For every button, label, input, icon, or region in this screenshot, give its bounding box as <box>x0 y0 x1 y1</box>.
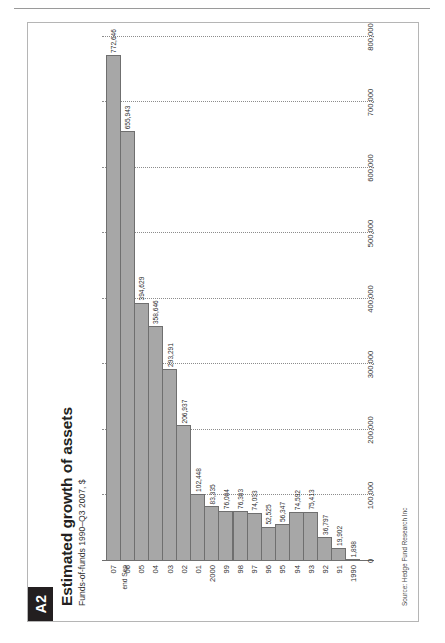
value-tick-label: 100,000 <box>366 481 375 508</box>
bar-94 <box>289 512 304 561</box>
bar-99 <box>218 511 233 561</box>
value-tick-label: 300,000 <box>366 350 375 377</box>
bar-97 <box>246 512 261 560</box>
bar-row: 358,646 <box>147 37 162 561</box>
bar-value-label: 655,943 <box>123 105 130 131</box>
bar-96 <box>260 526 275 560</box>
bar-value-label: 76,084 <box>222 489 229 511</box>
bar-row: 293,291 <box>162 37 177 561</box>
bar-value-label: 74,592 <box>293 489 300 511</box>
bar-row: 102,448 <box>190 37 205 561</box>
bar-row: 19,902 <box>331 37 346 561</box>
figure-titles: Estimated growth of assets Funds-of-fund… <box>58 276 88 606</box>
value-axis: 0100,000200,000300,000400,000500,000600,… <box>360 37 376 561</box>
category-label-07: 07 <box>108 565 117 573</box>
bar-06 <box>119 131 134 561</box>
value-tick-label: 0 <box>366 558 375 562</box>
bar-value-label: 293,291 <box>166 343 173 369</box>
bar-row: 74,033 <box>246 37 261 561</box>
bar-03 <box>162 368 177 560</box>
category-label-1990: 1990 <box>348 565 357 582</box>
bar-value-label: 358,646 <box>151 300 158 326</box>
bar-row: 76,084 <box>218 37 233 561</box>
bar-row: 76,383 <box>232 37 247 561</box>
value-tick-label: 200,000 <box>366 416 375 443</box>
bar-value-label: 74,033 <box>250 490 257 512</box>
category-label-02: 02 <box>179 565 188 573</box>
value-tick-label: 800,000 <box>366 23 375 50</box>
bar-row: 655,943 <box>119 37 134 561</box>
bar-value-label: 83,335 <box>208 484 215 506</box>
plot-inner: 1,89819,90236,79775,41374,59256,34752,52… <box>106 37 360 561</box>
bar-row: 772,646 <box>105 37 120 561</box>
page-top-rule <box>14 8 430 9</box>
bar-07 <box>105 54 120 560</box>
bar-value-label: 36,797 <box>321 514 328 536</box>
bar-05 <box>133 302 148 560</box>
value-tick-label: 600,000 <box>366 154 375 181</box>
plot-area: 1990919293949596979899200001020304050607… <box>106 37 376 587</box>
category-label-94: 94 <box>292 565 301 573</box>
bar-row: 52,525 <box>260 37 275 561</box>
category-label-93: 93 <box>306 565 315 573</box>
category-label-99: 99 <box>221 565 230 573</box>
chart-subtitle: Funds-of-funds 1990–Q3 2007, $ <box>78 276 87 606</box>
bar-row: 394,629 <box>133 37 148 561</box>
bar-row: 75,413 <box>303 37 318 561</box>
bar-91 <box>331 547 346 560</box>
bar-95 <box>274 524 289 561</box>
chart-title: Estimated growth of assets <box>58 276 75 606</box>
bar-value-label: 56,347 <box>278 501 285 523</box>
bar-row: 1,898 <box>345 37 360 561</box>
bar-value-label: 52,525 <box>264 504 271 526</box>
bar-series: 1,89819,90236,79775,41374,59256,34752,52… <box>106 37 360 561</box>
bar-row: 56,347 <box>274 37 289 561</box>
category-label-92: 92 <box>320 565 329 573</box>
value-tick-label: 400,000 <box>366 285 375 312</box>
category-label-98: 98 <box>235 565 244 573</box>
category-label-04: 04 <box>150 565 159 573</box>
bar-value-label: 19,902 <box>335 525 342 547</box>
value-tick-label: 500,000 <box>366 219 375 246</box>
source-note: Source: Hedge Fund Research Inc <box>401 507 408 605</box>
bar-value-label: 102,448 <box>194 468 201 494</box>
figure-panel: A2 Estimated growth of assets Funds-of-f… <box>27 22 419 622</box>
bar-92 <box>317 536 332 560</box>
value-tick-label: 700,000 <box>366 88 375 115</box>
category-label-01: 01 <box>193 565 202 573</box>
bar-row: 36,797 <box>317 37 332 561</box>
bar-2000 <box>204 506 219 561</box>
bar-row: 206,937 <box>176 37 191 561</box>
category-label-96: 96 <box>263 565 272 573</box>
category-label-95: 95 <box>277 565 286 573</box>
figure-badge: A2 <box>28 587 53 621</box>
category-label-03: 03 <box>165 565 174 573</box>
bar-93 <box>303 511 318 560</box>
category-label-2000: 2000 <box>207 565 216 582</box>
bar-value-label: 75,413 <box>307 489 314 511</box>
bar-value-label: 772,646 <box>109 29 116 55</box>
category-label-91: 91 <box>334 565 343 573</box>
annotation-end-sep: end Sep <box>120 565 127 590</box>
bar-01 <box>190 493 205 560</box>
bar-98 <box>232 510 247 560</box>
bar-row: 74,592 <box>289 37 304 561</box>
bar-value-label: 76,383 <box>236 488 243 510</box>
rotated-figure-wrapper: A2 Estimated growth of assets Funds-of-f… <box>27 22 419 622</box>
bar-02 <box>176 425 191 561</box>
bar-value-label: 206,937 <box>180 399 187 425</box>
bar-row: 83,335 <box>204 37 219 561</box>
category-axis: 1990919293949596979899200001020304050607… <box>106 561 360 587</box>
bar-04 <box>147 326 162 561</box>
category-label-05: 05 <box>136 565 145 573</box>
category-label-97: 97 <box>249 565 258 573</box>
bar-value-label: 394,629 <box>137 276 144 302</box>
bar-value-label: 1,898 <box>349 540 356 559</box>
